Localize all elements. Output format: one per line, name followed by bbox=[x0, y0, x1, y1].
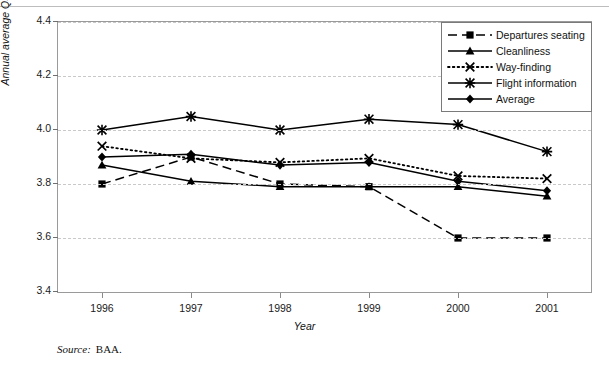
legend-label: Cleanliness bbox=[496, 44, 550, 58]
legend-marker-triangle-icon bbox=[447, 44, 493, 58]
series-cleanliness bbox=[98, 161, 552, 200]
y-tick-label: 3.6 bbox=[17, 230, 51, 242]
series-average bbox=[98, 150, 551, 196]
x-tick-label: 1997 bbox=[169, 302, 213, 314]
gridline bbox=[58, 130, 591, 131]
x-tick-mark bbox=[547, 293, 548, 298]
legend-item: Cleanliness bbox=[447, 43, 585, 59]
legend-marker-asterisk-icon bbox=[447, 76, 493, 90]
legend-marker-diamond-icon bbox=[447, 92, 493, 106]
top-rule bbox=[0, 6, 609, 7]
x-axis-title: Year bbox=[0, 320, 609, 332]
source-value: BAA. bbox=[96, 343, 122, 355]
x-tick-mark bbox=[458, 293, 459, 298]
x-tick-label: 1996 bbox=[80, 302, 124, 314]
figure: Annual average QSM score 3.43.63.84.04.2… bbox=[0, 0, 609, 373]
source-caption: Source:BAA. bbox=[57, 343, 122, 355]
y-tick-mark bbox=[53, 21, 58, 22]
y-tick-label: 3.8 bbox=[17, 176, 51, 188]
y-tick-mark bbox=[53, 75, 58, 76]
x-tick-label: 1999 bbox=[347, 302, 391, 314]
legend-item: Departures seating bbox=[447, 27, 585, 43]
legend-item: Flight information bbox=[447, 75, 585, 91]
legend-item: Way-finding bbox=[447, 59, 585, 75]
y-tick-mark bbox=[53, 183, 58, 184]
x-tick-label: 2000 bbox=[436, 302, 480, 314]
y-tick-label: 4.4 bbox=[17, 14, 51, 26]
legend-label: Flight information bbox=[496, 76, 577, 90]
source-label: Source: bbox=[57, 343, 91, 355]
y-tick-label: 4.0 bbox=[17, 122, 51, 134]
chart-legend: Departures seatingCleanlinessWay-finding… bbox=[441, 22, 592, 112]
y-tick-label: 3.4 bbox=[17, 284, 51, 296]
series-departures-seating bbox=[98, 153, 550, 241]
gridline bbox=[58, 184, 591, 185]
y-tick-mark bbox=[53, 291, 58, 292]
legend-label: Way-finding bbox=[496, 60, 551, 74]
gridline bbox=[58, 238, 591, 239]
x-tick-label: 2001 bbox=[525, 302, 569, 314]
legend-label: Departures seating bbox=[496, 28, 585, 42]
x-tick-mark bbox=[191, 293, 192, 298]
y-axis-title: Annual average QSM score bbox=[0, 0, 11, 96]
legend-label: Average bbox=[496, 92, 535, 106]
legend-marker-x-icon bbox=[447, 60, 493, 74]
x-tick-mark bbox=[280, 293, 281, 298]
y-tick-mark bbox=[53, 129, 58, 130]
x-tick-mark bbox=[102, 293, 103, 298]
x-tick-label: 1998 bbox=[258, 302, 302, 314]
x-tick-mark bbox=[369, 293, 370, 298]
y-tick-label: 4.2 bbox=[17, 68, 51, 80]
series-flight-information bbox=[97, 111, 552, 157]
legend-item: Average bbox=[447, 91, 585, 107]
y-tick-mark bbox=[53, 237, 58, 238]
legend-marker-square-icon bbox=[447, 28, 493, 42]
